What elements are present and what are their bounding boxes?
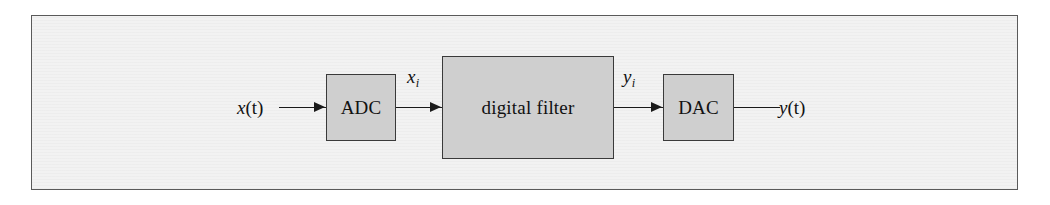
figure-frame: ADC digital filter DAC x(t) xi yi y(t) [31,15,1018,190]
block-dac: DAC [663,74,734,141]
arrowhead-filter-to-dac [651,102,662,112]
block-digital-filter-label: digital filter [481,98,574,117]
signal-label-output-arg: (t) [787,97,805,118]
arrowhead-adc-to-filter [430,102,441,112]
arrowhead-input-to-adc [314,102,325,112]
signal-label-filtered-subscript: i [631,76,635,90]
wire-dac-to-output [734,107,780,108]
block-dac-label: DAC [678,98,719,117]
block-adc: ADC [326,74,396,141]
signal-label-sampled-subscript: i [415,76,419,90]
signal-label-filtered: yi [623,67,635,89]
signal-label-output: y(t) [779,98,805,117]
block-adc-label: ADC [341,98,382,117]
signal-label-input-arg: (t) [245,97,263,118]
block-diagram-figure: ADC digital filter DAC x(t) xi yi y(t) [0,0,1050,205]
block-digital-filter: digital filter [442,56,614,159]
signal-label-input: x(t) [237,98,263,117]
signal-label-sampled: xi [407,67,419,89]
